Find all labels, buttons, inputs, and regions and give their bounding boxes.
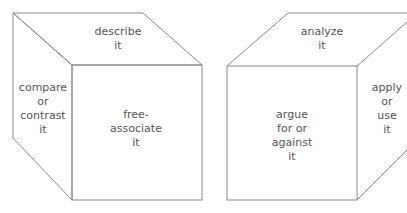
right-cube-front-label: argue for or against it — [272, 108, 313, 164]
cubing-diagram: describe it compare or contrast it free-… — [0, 0, 407, 213]
right-cube-right-label: apply or use it — [372, 81, 402, 137]
right-cube-bottom-right-edge — [357, 150, 407, 200]
left-cube-front-label: free- associate it — [110, 108, 162, 150]
right-cube-top-right-edge — [357, 22, 407, 66]
left-cube-top-label: describe it — [95, 25, 142, 53]
left-cube-left-label: compare or contrast it — [19, 81, 67, 137]
right-cube-top-label: analyze it — [301, 25, 344, 53]
